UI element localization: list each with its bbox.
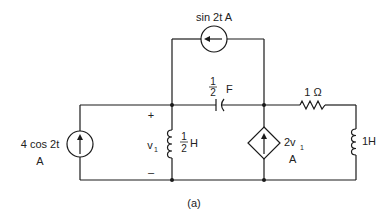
capacitor-value-num: 1 <box>210 76 216 87</box>
plus-sign: + <box>148 109 154 121</box>
inductor-one-henry: 1H <box>352 129 377 155</box>
inductor-half-henry: 1 2 H <box>168 130 199 158</box>
dependent-source-unit: A <box>289 153 297 165</box>
cos-source-unit: A <box>36 155 44 167</box>
figure-caption: (a) <box>187 197 200 209</box>
node-a-top <box>170 103 174 107</box>
node-b-bottom <box>262 178 266 182</box>
resistor-label: 1 Ω <box>304 86 321 98</box>
inductor-left-den: 2 <box>181 143 187 154</box>
current-source-sin: sin 2t A <box>196 11 233 52</box>
voltage-v1: + v 1 – <box>147 109 158 178</box>
resistor-zigzag-icon <box>300 101 325 109</box>
sin-source-label: sin 2t A <box>196 11 233 23</box>
inductor-left-unit: H <box>190 137 198 149</box>
arrow-up-icon <box>77 134 83 140</box>
arrow-left-icon <box>204 36 210 42</box>
resistor: 1 Ω <box>300 86 325 109</box>
inductor-left-num: 1 <box>181 131 187 142</box>
wires <box>80 39 356 180</box>
inductor-coil-icon <box>168 130 173 158</box>
capacitor: 1 2 F <box>209 76 233 111</box>
node-b-top <box>262 103 266 107</box>
v1-symbol: v <box>147 139 153 151</box>
capacitor-unit: F <box>226 83 233 95</box>
arrow-up-icon <box>261 133 267 139</box>
minus-sign: – <box>148 166 155 178</box>
dependent-current-source: 2v 1 A <box>248 127 304 165</box>
dependent-source-subscript: 1 <box>300 144 304 151</box>
circuit-diagram: sin 2t A 4 cos 2t A 1 2 F 1 Ω 1 2 H + v … <box>0 0 388 218</box>
inductor-coil-icon <box>352 129 357 155</box>
node-a-bottom <box>170 178 174 182</box>
current-source-cos: 4 cos 2t A <box>21 131 93 167</box>
inductor-right-label: 1H <box>362 135 376 147</box>
cos-source-label: 4 cos 2t <box>21 138 60 150</box>
capacitor-value-den: 2 <box>210 87 216 98</box>
v1-subscript: 1 <box>154 146 158 153</box>
dependent-source-coef: 2v <box>284 136 296 148</box>
